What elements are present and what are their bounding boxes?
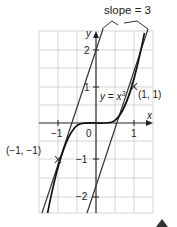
tick-y-1: 1: [84, 82, 90, 93]
tangent-line-lower: [42, 29, 103, 213]
y-axis-arrow-icon: [93, 31, 99, 38]
tick-x-1: 1: [131, 128, 137, 139]
curve-label: y = x3: [99, 90, 125, 102]
point-label-upper: (1, 1): [138, 89, 161, 100]
slope-annotation: slope = 3: [104, 4, 151, 16]
tick-y-neg1: −1: [76, 154, 88, 165]
y-axis-label: y: [85, 28, 92, 39]
tick-x-neg1: −1: [51, 128, 63, 139]
tick-y-2: 2: [84, 45, 90, 56]
x-axis-label: x: [146, 110, 153, 121]
axes: [39, 36, 149, 213]
cubic-tangent-diagram: slope = 3 y x 2 1 −1 −2 −1 0 1 y = x3 (1…: [0, 0, 177, 227]
tick-y-neg2: −2: [76, 191, 88, 202]
slope-annotation-arrows: [102, 21, 148, 29]
tick-x-0: 0: [86, 128, 92, 139]
point-label-lower: (−1, −1): [6, 145, 41, 156]
corner-triangle-icon: [156, 219, 168, 227]
